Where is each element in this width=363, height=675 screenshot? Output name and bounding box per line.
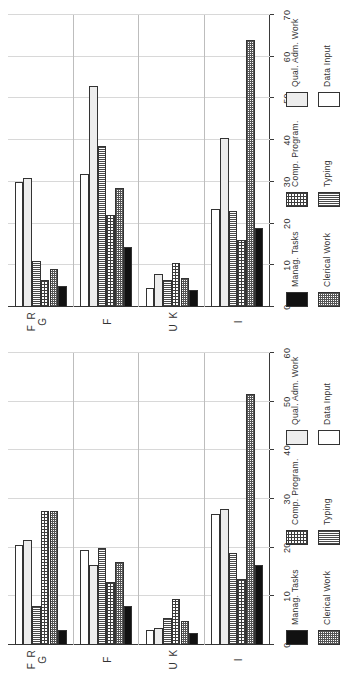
group-separator	[204, 353, 205, 645]
bar	[255, 228, 264, 307]
gridline	[8, 14, 270, 15]
gridline	[8, 449, 270, 450]
bar	[237, 579, 246, 645]
legend-swatch-icon	[286, 92, 308, 107]
x-axis-line-bottom	[269, 353, 270, 645]
axis-tick	[270, 223, 274, 224]
legend-label: Manag. Tasks	[290, 569, 300, 625]
gridline	[8, 352, 270, 353]
plot-area-top: 010203040506070IU KFF R G	[8, 15, 270, 307]
bar	[89, 86, 98, 307]
legend-label: Clerical Work	[322, 571, 332, 625]
group-label-frg: F R G	[26, 647, 48, 671]
group-label-i: I	[233, 309, 244, 333]
legend-bottom: Manag. TasksClerical WorkComp. Program.T…	[286, 353, 356, 645]
figure-page: 010203040506070IU KFF R G Manag. TasksCl…	[0, 0, 363, 675]
group-separator	[73, 353, 74, 645]
gridline	[8, 56, 270, 57]
bar	[124, 606, 133, 645]
bar	[181, 621, 190, 645]
legend-column: Comp. Program.Typing	[286, 453, 356, 545]
legend-swatch-icon	[286, 430, 308, 445]
axis-tick	[270, 401, 274, 402]
bar	[211, 209, 220, 307]
axis-tick	[270, 595, 274, 596]
plot-area-bottom: 0102030405060IU KFF R G	[8, 353, 270, 645]
bar	[106, 582, 115, 645]
legend-swatch-icon	[318, 292, 340, 307]
gridline	[8, 401, 270, 402]
bar	[220, 138, 229, 307]
x-axis-line-top	[269, 15, 270, 307]
axis-tick	[270, 56, 274, 57]
gridline	[8, 139, 270, 140]
legend-label: Data Input	[322, 45, 332, 87]
bar	[229, 211, 238, 307]
legend-swatch-icon	[286, 192, 308, 207]
legend-column: Manag. TasksClerical Work	[286, 553, 356, 645]
bar	[80, 174, 89, 307]
bar	[50, 269, 59, 307]
bar	[115, 188, 124, 307]
legend-label: Data Input	[322, 383, 332, 425]
bar	[89, 565, 98, 645]
bar	[15, 545, 24, 645]
legend-top: Manag. TasksClerical WorkComp. Program.T…	[286, 15, 356, 307]
axis-tick	[270, 14, 274, 15]
bar	[41, 511, 50, 645]
bar	[23, 540, 32, 645]
bar	[32, 606, 41, 645]
legend-column: Comp. Program.Typing	[286, 115, 356, 207]
axis-tick	[270, 264, 274, 265]
axis-tick	[270, 181, 274, 182]
legend-column: Manag. TasksClerical Work	[286, 215, 356, 307]
bar	[229, 553, 238, 645]
legend-label: Comp. Program.	[290, 120, 300, 187]
chart-panel-top: 010203040506070IU KFF R G Manag. TasksCl…	[0, 0, 363, 337]
bar	[106, 215, 115, 307]
legend-label: Qual. Adm. Work	[290, 356, 300, 425]
legend-column: Qual. Adm. WorkData Input	[286, 15, 356, 107]
bar	[58, 630, 67, 645]
legend-swatch-icon	[286, 292, 308, 307]
chart-panel-bottom: 0102030405060IU KFF R G Manag. TasksCler…	[0, 338, 363, 675]
bar	[98, 146, 107, 307]
group-separator	[73, 15, 74, 307]
gridline	[8, 181, 270, 182]
bar	[163, 280, 172, 307]
legend-swatch-icon	[286, 530, 308, 545]
bar	[154, 628, 163, 645]
bar	[211, 514, 220, 645]
group-label-uk: U K	[168, 309, 179, 333]
bar	[50, 511, 59, 645]
gridline	[8, 498, 270, 499]
legend-label: Typing	[322, 498, 332, 525]
bar	[41, 280, 50, 307]
bar	[15, 182, 24, 307]
legend-swatch-icon	[286, 630, 308, 645]
legend-swatch-icon	[318, 430, 340, 445]
axis-tick	[270, 352, 274, 353]
bar	[98, 548, 107, 645]
bar	[124, 247, 133, 307]
bar	[237, 240, 246, 307]
bar	[58, 286, 67, 307]
bar	[255, 565, 264, 645]
bar	[189, 290, 198, 307]
bar	[172, 263, 181, 307]
bar	[246, 394, 255, 645]
legend-label: Typing	[322, 160, 332, 187]
group-separator	[138, 353, 139, 645]
bar	[220, 509, 229, 645]
bar	[146, 288, 155, 307]
bar	[115, 562, 124, 645]
group-separator	[138, 15, 139, 307]
group-label-i: I	[233, 647, 244, 671]
bar	[172, 599, 181, 645]
axis-tick	[270, 498, 274, 499]
bar	[181, 278, 190, 307]
bar	[246, 40, 255, 307]
legend-label: Clerical Work	[322, 233, 332, 287]
axis-tick	[270, 139, 274, 140]
group-label-frg: F R G	[26, 309, 48, 333]
